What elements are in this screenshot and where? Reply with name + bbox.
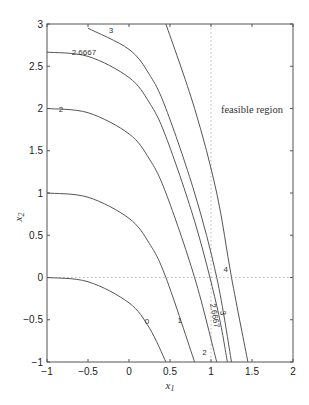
y-axis-label: x2 [12,213,26,223]
y-tick-label: 0.5 [29,230,43,241]
y-tick-label: −1 [32,357,44,368]
contour-label: 1 [178,316,183,325]
y-tick-label: 0 [37,272,43,283]
contour-label: 4 [224,265,229,274]
y-tick-label: −0.5 [23,314,43,325]
y-tick-label: 2.5 [29,61,43,72]
y-tick-label: 1.5 [29,145,43,156]
contour-2 [47,109,217,363]
y-tick-label: 2 [37,103,43,114]
x-tick-label: 0.5 [163,366,177,377]
contour-label: 2.6667 [72,48,97,57]
x-tick-label: 1 [208,366,214,377]
axes-box [47,24,293,362]
contour-label: 0 [145,317,150,326]
feasible-region-label: feasible region [221,104,284,115]
contour-chart: 0122.66673422.66673−1−0.500.511.52−1−0.5… [0,0,309,405]
x-tick-label: −1 [41,366,53,377]
plot-area: 0122.66673422.66673−1−0.500.511.52−1−0.5… [12,19,296,394]
y-tick-label: 3 [37,19,43,30]
contour-label: 2 [59,105,64,114]
x-axis-label: x1 [165,379,175,393]
contour-label: 3 [218,310,228,316]
contour-label: 2 [202,348,207,357]
x-tick-label: −0.5 [78,366,98,377]
x-tick-label: 1.5 [245,366,259,377]
x-tick-label: 2 [290,366,296,377]
contour-label: 3 [109,26,114,35]
y-tick-label: 1 [37,188,43,199]
contour-2.6667 [47,52,227,362]
x-tick-label: 0 [126,366,132,377]
